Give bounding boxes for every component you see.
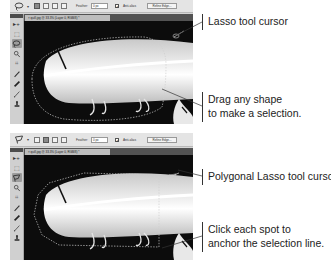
- intersect-with-selection-button[interactable]: [61, 137, 67, 143]
- document-tab-bar: × quill.jpg @ 33.3% (Layer 0, RGB/8) *: [10, 148, 193, 155]
- polygonal-lasso-icon[interactable]: [14, 135, 24, 144]
- lasso-screenshot-panel: ▾ Feather: 0 px ✓ Anti-alias Refine Edge…: [10, 0, 193, 124]
- quick-selection-tool-icon[interactable]: [12, 183, 22, 192]
- intersect-with-selection-button[interactable]: [61, 3, 67, 9]
- subtract-from-selection-button[interactable]: [52, 3, 58, 9]
- polygonal-lasso-tool-icon[interactable]: [12, 173, 22, 182]
- polygonal-lasso-cursor-callout: Polygonal Lasso tool cursor: [208, 169, 331, 183]
- callout-bracket: [202, 169, 203, 185]
- feather-label: Feather:: [76, 138, 88, 142]
- lasso-cursor-callout: Lasso tool cursor: [208, 14, 288, 28]
- tools-panel-grip[interactable]: [10, 148, 23, 152]
- add-to-selection-button[interactable]: [43, 137, 49, 143]
- move-tool-icon[interactable]: ▸+: [12, 153, 22, 162]
- callout-bracket: [202, 92, 203, 122]
- add-to-selection-button[interactable]: [43, 3, 49, 9]
- callout-text: Polygonal Lasso tool cursor: [208, 169, 331, 183]
- refine-edge-button[interactable]: Refine Edge...: [147, 3, 177, 9]
- tools-panel: ▸+ ⬚ ⌗: [10, 14, 24, 124]
- eyedropper-tool-icon[interactable]: [12, 203, 22, 212]
- eyedropper-tool-icon[interactable]: [12, 69, 22, 78]
- callout-text-line-2: anchor the selection line.: [208, 236, 324, 250]
- healing-brush-tool-icon[interactable]: [12, 79, 22, 88]
- crop-tool-icon[interactable]: ⌗: [12, 59, 22, 68]
- subtract-from-selection-button[interactable]: [52, 137, 58, 143]
- document-canvas[interactable]: [24, 155, 193, 260]
- stamp-tool-icon[interactable]: [12, 99, 22, 108]
- refine-edge-button[interactable]: Refine Edge...: [147, 137, 177, 143]
- marquee-tool-icon[interactable]: ⬚: [12, 29, 22, 38]
- anti-alias-label: Anti-alias: [123, 4, 136, 8]
- anti-alias-checkbox[interactable]: ✓: [115, 138, 119, 142]
- callout-text-line-2: to make a selection.: [208, 106, 301, 120]
- lasso-icon[interactable]: [14, 2, 24, 11]
- tool-preset-dropdown-icon[interactable]: ▾: [27, 137, 29, 142]
- marquee-tool-icon[interactable]: ⬚: [12, 163, 22, 172]
- brush-tool-icon[interactable]: [12, 89, 22, 98]
- polygonal-lasso-screenshot-panel: ▾ Feather: 0 px ✓ Anti-alias Refine Edge…: [10, 133, 193, 260]
- quick-selection-tool-icon[interactable]: [12, 49, 22, 58]
- anti-alias-checkbox[interactable]: ✓: [115, 4, 119, 8]
- new-selection-button[interactable]: [34, 137, 40, 143]
- tool-preset-dropdown-icon[interactable]: ▾: [27, 4, 29, 9]
- anti-alias-label: Anti-alias: [123, 138, 136, 142]
- new-selection-button[interactable]: [34, 3, 40, 9]
- brush-tool-icon[interactable]: [12, 223, 22, 232]
- callout-bracket: [202, 14, 203, 30]
- document-tab-bar: × quill.jpg @ 33.3% (Layer 0, RGB/8) *: [10, 14, 193, 21]
- healing-brush-tool-icon[interactable]: [12, 213, 22, 222]
- callout-text-line-1: Drag any shape: [208, 92, 301, 106]
- click-anchor-callout: Click each spot to anchor the selection …: [208, 222, 324, 250]
- options-bar: ▾ Feather: 0 px ✓ Anti-alias Refine Edge…: [10, 0, 193, 13]
- tools-panel-grip[interactable]: [10, 14, 23, 18]
- callout-text-line-1: Click each spot to: [208, 222, 324, 236]
- feather-input[interactable]: 0 px: [91, 137, 108, 143]
- options-bar: ▾ Feather: 0 px ✓ Anti-alias Refine Edge…: [10, 133, 193, 147]
- feather-label: Feather:: [76, 4, 88, 8]
- callout-bracket: [202, 222, 203, 252]
- drag-selection-callout: Drag any shape to make a selection.: [208, 92, 301, 120]
- document-canvas[interactable]: [24, 21, 193, 124]
- stamp-tool-icon[interactable]: [12, 233, 22, 242]
- tools-panel: ▸+ ⬚ ⌗: [10, 148, 24, 260]
- crop-tool-icon[interactable]: ⌗: [12, 193, 22, 202]
- move-tool-icon[interactable]: ▸+: [12, 19, 22, 28]
- lasso-tool-icon[interactable]: [12, 39, 22, 48]
- callout-text: Lasso tool cursor: [208, 14, 288, 28]
- feather-input[interactable]: 0 px: [91, 3, 108, 9]
